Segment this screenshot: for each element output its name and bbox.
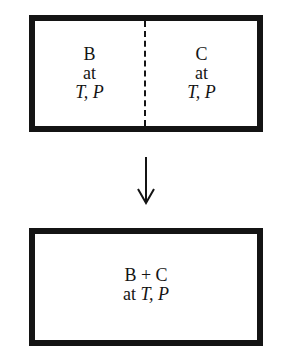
conditions-mixture: T, P xyxy=(140,284,169,304)
conditions-c: T, P xyxy=(146,83,257,102)
down-arrow-icon xyxy=(136,157,156,205)
species-b: B xyxy=(35,45,144,64)
compartment-c-label: C at T, P xyxy=(146,45,257,102)
at-text-mixture: at xyxy=(123,284,136,304)
species-mixture: B + C xyxy=(35,266,257,285)
mixture-label: B + C at T, P xyxy=(35,266,257,304)
species-c: C xyxy=(146,45,257,64)
compartment-b-label: B at T, P xyxy=(35,45,144,102)
mixture-conditions-line: at T, P xyxy=(35,285,257,304)
conditions-b: T, P xyxy=(35,83,144,102)
at-text-b: at xyxy=(35,64,144,83)
at-text-c: at xyxy=(146,64,257,83)
